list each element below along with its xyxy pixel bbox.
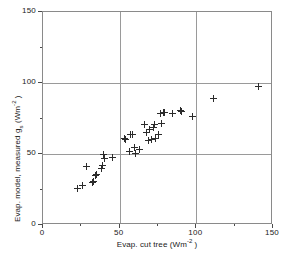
x-axis-title-exponent: -2: [187, 238, 193, 244]
data-point: [129, 131, 136, 138]
data-point: [136, 146, 143, 153]
x-axis-title-tail: ): [195, 240, 198, 249]
data-point: [93, 171, 100, 178]
gridline-vertical: [196, 12, 197, 223]
x-tick-minor: [80, 224, 81, 226]
gridline-horizontal: [43, 154, 271, 155]
gridline-horizontal: [43, 83, 271, 84]
data-point: [109, 154, 116, 161]
x-axis-title: Evap. cut tree (Wm-2): [42, 240, 272, 249]
data-point: [158, 120, 165, 127]
data-point: [189, 113, 196, 120]
x-tick-label: 0: [22, 228, 62, 237]
y-tick-major: [38, 11, 42, 12]
x-tick-label: 100: [175, 228, 215, 237]
y-axis-title-exponent: -2: [11, 100, 17, 106]
x-tick-label: 150: [252, 228, 288, 237]
scatter-plot-figure: 050100150 050100150 Evap. cut tree (Wm-2…: [0, 0, 288, 261]
x-axis-title-main: Evap. cut tree (Wm: [117, 240, 187, 249]
data-point: [169, 110, 176, 117]
data-point: [90, 178, 97, 185]
y-axis-title-part2: (Wm: [13, 106, 22, 126]
data-point: [210, 95, 217, 102]
data-point: [79, 182, 86, 189]
data-point: [99, 162, 106, 169]
plot-area: [42, 11, 272, 224]
y-tick-minor: [40, 118, 42, 119]
data-point: [101, 155, 108, 162]
x-tick-minor: [157, 224, 158, 226]
x-tick-label: 50: [99, 228, 139, 237]
y-tick-major: [38, 153, 42, 154]
data-point: [83, 163, 90, 170]
data-point: [155, 131, 162, 138]
data-point: [255, 83, 262, 90]
gridline-vertical: [120, 12, 121, 223]
y-axis-title: Evap. model, measured gs (Wm-2): [13, 96, 22, 222]
y-tick-minor: [40, 47, 42, 48]
y-tick-minor: [40, 189, 42, 190]
y-tick-major: [38, 82, 42, 83]
y-axis-title-part1: Evap. model, measured g: [13, 129, 22, 222]
data-point: [178, 108, 185, 115]
y-tick-major: [38, 224, 42, 225]
data-point: [161, 109, 168, 116]
x-tick-minor: [234, 224, 235, 226]
y-axis-title-tail: ): [13, 96, 22, 99]
y-axis-title-wrapper: Evap. model, measured gs (Wm-2): [0, 0, 16, 235]
y-axis-title-subscript: s: [18, 125, 24, 128]
